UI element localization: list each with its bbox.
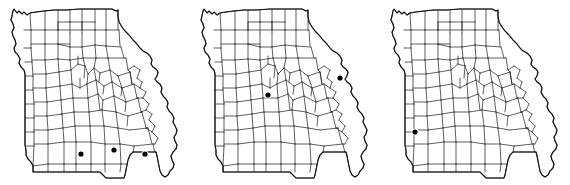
county-line <box>334 172 335 178</box>
county-line <box>343 177 350 178</box>
county-line <box>323 154 324 164</box>
county-line <box>333 162 334 172</box>
county-line <box>332 152 333 162</box>
missouri-county-map <box>190 0 380 185</box>
missouri-distribution-map-figure <box>0 0 570 185</box>
county-line <box>126 170 133 171</box>
county-line <box>147 156 157 160</box>
county-line <box>152 172 153 178</box>
county-line <box>324 160 337 164</box>
county-line <box>323 164 324 171</box>
county-line <box>528 170 540 171</box>
county-line <box>523 162 524 172</box>
county-line <box>524 172 525 178</box>
county-line <box>148 170 152 172</box>
occurrence-dots <box>412 129 419 136</box>
county-line <box>133 154 134 164</box>
county-line <box>337 156 347 160</box>
county-line <box>506 170 513 171</box>
county-line <box>133 152 134 164</box>
county-line <box>527 156 537 160</box>
occurrence-dot <box>142 151 147 156</box>
county-line <box>337 152 338 160</box>
county-line <box>147 160 148 170</box>
missouri-county-map <box>380 0 570 185</box>
county-line <box>527 160 528 170</box>
occurrence-dot <box>337 75 342 80</box>
county-line <box>143 162 144 172</box>
county-line <box>316 170 323 171</box>
county-line <box>532 172 533 178</box>
county-line <box>153 177 160 178</box>
county-line <box>144 172 145 178</box>
county-line <box>133 164 134 171</box>
county-line <box>513 154 514 164</box>
county-line <box>148 170 160 171</box>
county-line <box>513 164 514 171</box>
county-line <box>522 152 523 162</box>
county-line <box>533 177 540 178</box>
county-line <box>338 170 342 172</box>
occurrence-dot <box>412 129 417 134</box>
occurrence-dot <box>78 151 83 156</box>
occurrence-dot <box>111 147 116 152</box>
county-line <box>323 152 324 164</box>
county-line <box>338 170 350 171</box>
county-line <box>513 152 514 164</box>
state-body <box>11 9 177 178</box>
state-body <box>391 9 557 178</box>
missouri-county-map <box>0 0 190 185</box>
county-line <box>514 160 527 164</box>
county-line <box>337 160 338 170</box>
county-line <box>527 152 528 160</box>
map-panel-3 <box>380 0 570 185</box>
county-line <box>134 160 147 164</box>
county-line <box>528 170 532 172</box>
state-body <box>201 9 367 178</box>
map-panel-2 <box>190 0 380 185</box>
county-line <box>342 172 343 178</box>
map-panel-1 <box>0 0 190 185</box>
occurrence-dot <box>265 92 270 97</box>
